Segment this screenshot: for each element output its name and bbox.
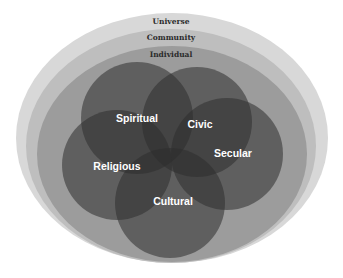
circle-label-religious: Religious — [93, 160, 140, 172]
ring-label-universe: Universe — [153, 17, 190, 26]
circle-label-cultural: Cultural — [153, 195, 193, 207]
ring-label-community: Community — [147, 33, 196, 42]
circle-label-civic: Civic — [187, 118, 212, 130]
circle-label-secular: Secular — [214, 147, 252, 159]
domains-diagram: Universe Community Individual Spiritual … — [0, 0, 343, 278]
ring-label-individual: Individual — [150, 50, 193, 59]
circle-label-spiritual: Spiritual — [116, 112, 158, 124]
